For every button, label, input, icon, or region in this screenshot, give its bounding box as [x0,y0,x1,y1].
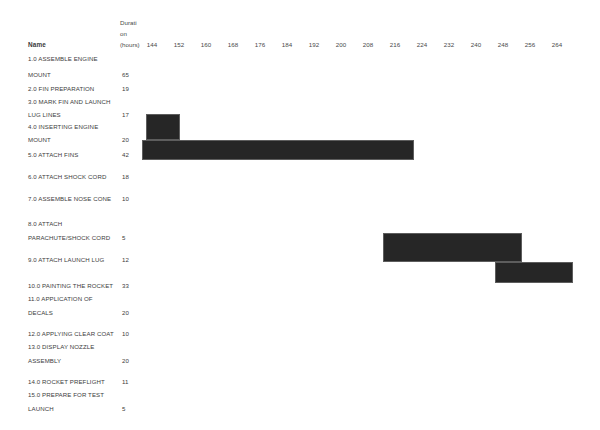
task-label: LUG LINES [28,112,61,118]
task-label: 1.0 ASSEMBLE ENGINE [28,56,98,62]
task-label: PARACHUTE/SHOCK CORD [28,235,110,241]
axis-tick-label: 208 [356,42,380,48]
task-label: 5.0 ATTACH FINS [28,152,78,158]
axis-tick-label: 176 [248,42,272,48]
task-label: 7.0 ASSEMBLE NOSE CONE [28,196,111,202]
task-label: DECALS [28,310,53,316]
task-label: 12.0 APPLYING CLEAR COAT [28,331,114,337]
axis-tick-label: 152 [167,42,191,48]
task-duration: 20 [122,310,144,316]
task-duration: 10 [122,196,144,202]
task-label: 6.0 ATTACH SHOCK CORD [28,174,106,180]
gantt-bar [383,233,522,262]
task-label: 14.0 ROCKET PREFLIGHT [28,379,105,385]
task-duration: 18 [122,174,144,180]
column-header-duration-line1: Durati [120,20,150,26]
axis-tick-label: 184 [275,42,299,48]
task-duration: 11 [122,379,144,385]
axis-tick-label: 240 [464,42,488,48]
axis-tick-label: 192 [302,42,326,48]
task-label: 15.0 PREPARE FOR TEST [28,392,104,398]
task-duration: 42 [122,152,144,158]
task-label: ASSEMBLY [28,358,61,364]
task-label: 10.0 PAINTING THE ROCKET [28,283,113,289]
gantt-bar [142,140,414,160]
axis-tick-label: 232 [437,42,461,48]
task-duration: 17 [122,112,144,118]
task-label: 4.0 INSERTING ENGINE [28,124,98,130]
task-duration: 12 [122,257,144,263]
task-duration: 65 [122,72,144,78]
task-label: 9.0 ATTACH LAUNCH LUG [28,257,104,263]
axis-tick-label: 224 [410,42,434,48]
column-header-name: Name [28,41,46,48]
axis-tick-label: 168 [221,42,245,48]
task-duration: 5 [122,406,144,412]
axis-tick-label: 264 [545,42,569,48]
gantt-bars-area [0,0,600,430]
task-label: MOUNT [28,137,51,143]
gantt-bar [146,114,180,140]
task-label: MOUNT [28,72,51,78]
task-label: 8.0 ATTACH [28,221,62,227]
axis-tick-label: 216 [383,42,407,48]
axis-tick-label: 144 [140,42,164,48]
axis-tick-label: 160 [194,42,218,48]
task-duration: 20 [122,358,144,364]
task-duration: 20 [122,137,144,143]
task-label: 2.0 FIN PREPARATION [28,86,94,92]
gantt-chart: Name Durati on (hours) 144 152 160 168 1… [0,0,600,430]
task-label: 11.0 APPLICATION OF [28,296,93,302]
task-label: 3.0 MARK FIN AND LAUNCH [28,99,111,105]
task-label: LAUNCH [28,406,54,412]
task-duration: 19 [122,86,144,92]
axis-tick-label: 256 [518,42,542,48]
axis-tick-label: 248 [491,42,515,48]
task-duration: 10 [122,331,144,337]
task-label: 13.0 DISPLAY NOZZLE [28,344,94,350]
task-duration: 5 [122,235,144,241]
task-duration: 33 [122,283,144,289]
gantt-bar [495,262,573,283]
axis-tick-label: 200 [329,42,353,48]
column-header-duration-line2: on [120,31,150,37]
